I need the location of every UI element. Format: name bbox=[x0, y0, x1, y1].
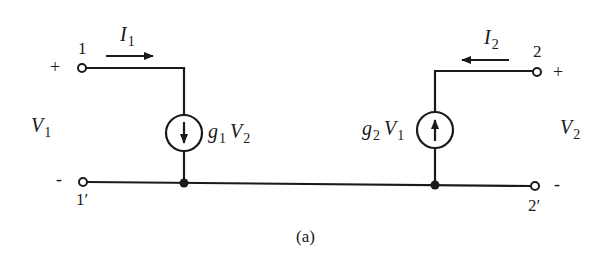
right-source-label: g2V1 bbox=[362, 118, 404, 138]
voltage-v1-label: V1 bbox=[31, 115, 51, 135]
terminal-2-prime bbox=[531, 182, 539, 190]
circuit-diagram: 1 1′ 2 2′ + - + - I1 I2 V1 V2 g1V2 g2V1 … bbox=[0, 0, 616, 280]
right-minus-sign: - bbox=[554, 175, 560, 193]
junction-right bbox=[431, 181, 440, 190]
left-plus-sign: + bbox=[50, 58, 60, 76]
terminal-2-label: 2 bbox=[533, 43, 542, 60]
voltage-v2-label: V2 bbox=[560, 117, 580, 137]
wire-top-left bbox=[86, 68, 184, 115]
wire-top-right bbox=[435, 71, 533, 112]
junction-left bbox=[180, 179, 189, 188]
right-plus-sign: + bbox=[553, 63, 563, 81]
current-i1-label: I1 bbox=[120, 24, 135, 44]
figure-caption: (a) bbox=[296, 228, 315, 245]
terminal-1-prime-label: 1′ bbox=[76, 191, 88, 208]
wire-bottom bbox=[87, 182, 531, 186]
terminal-1-label: 1 bbox=[78, 40, 87, 57]
terminal-1 bbox=[78, 64, 86, 72]
terminal-2 bbox=[533, 68, 541, 76]
left-source-label: g1V2 bbox=[208, 121, 250, 141]
current-i2-label: I2 bbox=[484, 27, 499, 47]
terminal-1-prime bbox=[79, 178, 87, 186]
left-minus-sign: - bbox=[56, 170, 62, 188]
terminal-2-prime-label: 2′ bbox=[528, 197, 540, 214]
